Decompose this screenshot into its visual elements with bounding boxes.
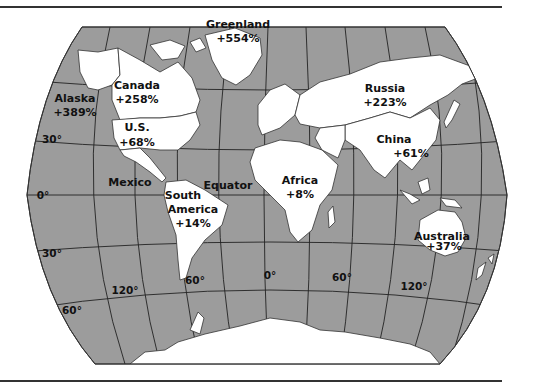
lat-label-30s: 30° [42, 247, 62, 259]
label-russia: Russia +223% [363, 82, 406, 109]
label-canada: Canada +258% [114, 79, 160, 106]
lon-label-60w: 60° [185, 274, 205, 286]
svg-text:America: America [168, 203, 219, 216]
svg-text:Africa: Africa [282, 174, 318, 187]
lat-label-0: 0° [37, 189, 50, 201]
svg-text:+14%: +14% [175, 217, 211, 230]
svg-text:+61%: +61% [393, 147, 429, 160]
label-alaska: Alaska +389% [53, 92, 96, 119]
svg-text:Alaska: Alaska [55, 92, 96, 105]
svg-text:Canada: Canada [114, 79, 160, 92]
label-africa: Africa +8% [282, 174, 318, 201]
svg-text:Greenland: Greenland [206, 18, 270, 31]
lon-label-120e: 120° [400, 280, 427, 292]
svg-text:Russia: Russia [365, 82, 406, 95]
lat-label-30n: 30° [42, 133, 62, 145]
bottom-rule [0, 380, 502, 382]
svg-text:U.S.: U.S. [124, 121, 149, 134]
svg-text:China: China [377, 133, 412, 146]
label-equator: Equator [204, 179, 253, 192]
world-map: Greenland +554% Canada +258% Alaska +389… [0, 0, 534, 387]
svg-text:+37%: +37% [426, 240, 462, 253]
label-mexico: Mexico [108, 176, 152, 189]
svg-text:+554%: +554% [216, 32, 259, 45]
lon-label-60e: 60° [332, 271, 352, 283]
svg-text:Mexico: Mexico [108, 176, 152, 189]
lon-label-120w: 120° [111, 284, 138, 296]
svg-text:+8%: +8% [286, 188, 314, 201]
lon-label-0: 0° [264, 269, 277, 281]
svg-text:+223%: +223% [363, 96, 406, 109]
svg-text:+68%: +68% [119, 136, 155, 149]
svg-text:+389%: +389% [53, 106, 96, 119]
lat-label-60s: 60° [62, 304, 82, 316]
svg-text:South: South [165, 189, 201, 202]
svg-text:+258%: +258% [115, 93, 158, 106]
